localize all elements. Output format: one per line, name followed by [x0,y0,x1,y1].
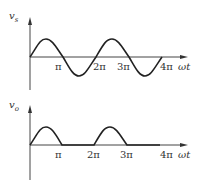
top-x-arrow-icon [180,55,188,59]
top-x-label: ωt [178,62,190,72]
top-y-label: vs [9,11,18,25]
top-tick-2pi: 2π [93,62,106,72]
bottom-tick-pi: π [55,150,62,160]
top-tick-3pi: 3π [117,62,130,72]
bottom-tick-4pi: 4π [160,150,173,160]
bottom-x-arrow-icon [180,143,188,147]
bottom-y-label: vo [9,100,19,114]
top-tick-pi: π [55,62,62,72]
bottom-y-arrow-icon [28,105,32,113]
top-tick-4pi: 4π [160,62,173,72]
bottom-x-label: ωt [178,150,190,160]
bottom-axes [30,110,183,180]
bottom-tick-2pi: 2π [87,150,100,160]
bottom-tick-3pi: 3π [120,150,133,160]
top-y-arrow-icon [28,17,32,25]
bottom-rectified-curve [30,127,160,145]
top-axes [30,22,183,90]
